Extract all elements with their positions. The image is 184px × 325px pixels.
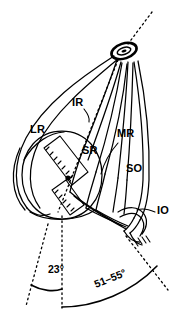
globe-axis-dotted — [126, 236, 168, 290]
label-ir: IR — [72, 96, 83, 108]
superior-orbital-axis-dotted — [128, 12, 152, 44]
diagram-canvas: LR IR SR MR SO IO 23° 51–55° — [0, 0, 184, 325]
label-mr: MR — [117, 127, 135, 139]
label-io: IO — [157, 204, 169, 216]
label-lr: LR — [30, 123, 45, 135]
arc-23-degrees — [31, 285, 62, 291]
leader-ir — [84, 109, 89, 122]
annulus-of-zinn — [109, 40, 138, 62]
angle-label-group: 23° 51–55° — [48, 263, 128, 290]
extraocular-muscle-diagram: LR IR SR MR SO IO 23° 51–55° — [0, 0, 184, 325]
superior-oblique-muscle — [124, 61, 149, 233]
label-so: SO — [126, 162, 143, 174]
label-sr: SR — [82, 144, 98, 156]
muscle-label-group: LR IR SR MR SO IO — [30, 96, 169, 216]
globe-limbus-arc — [24, 132, 64, 160]
lateral-rectus-muscle — [13, 56, 118, 215]
orbital-axis-extension-dotted — [26, 224, 48, 306]
label-angle-51-55: 51–55° — [92, 266, 127, 290]
label-angle-23: 23° — [48, 263, 64, 275]
